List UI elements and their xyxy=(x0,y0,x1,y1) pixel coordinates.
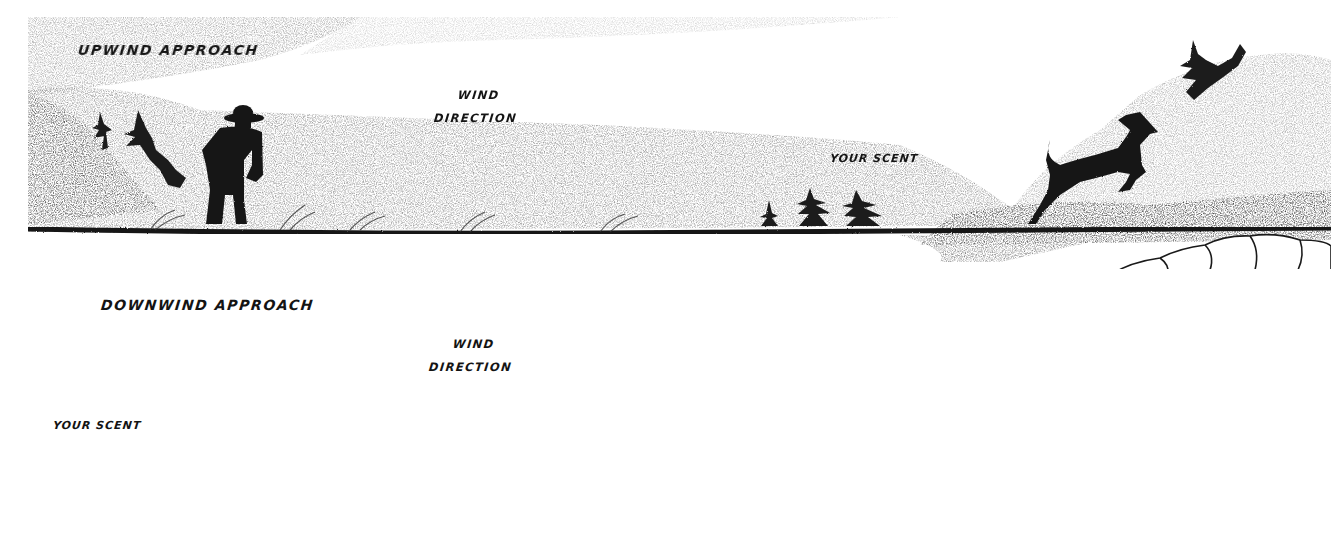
illustration-canvas xyxy=(0,0,1332,546)
wind-label-upwind-bottom: DIRECTION xyxy=(433,111,518,125)
wind-label-downwind-bottom: DIRECTION xyxy=(428,360,513,374)
panel-title-upwind: UPWIND APPROACH xyxy=(77,42,260,58)
illustration-stage: UPWIND APPROACH WIND DIRECTION YOUR SCEN… xyxy=(0,0,1332,546)
scent-label-upwind: YOUR SCENT xyxy=(829,152,919,165)
scent-label-downwind: YOUR SCENT xyxy=(52,419,142,432)
wind-label-downwind-top: WIND xyxy=(452,337,495,351)
panel-title-downwind: DOWNWIND APPROACH xyxy=(100,297,315,313)
wind-label-upwind-top: WIND xyxy=(457,88,500,102)
